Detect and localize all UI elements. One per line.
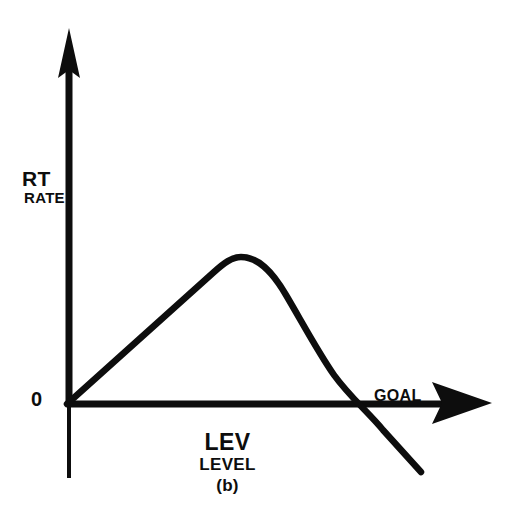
origin-label: 0 (31, 389, 43, 409)
x-axis-full-label: LEVEL (0, 456, 455, 473)
figure-panel-b: RT RATE 0 LEV LEVEL (b) GOAL (0, 0, 507, 517)
panel-caption-label: (b) (0, 477, 455, 494)
x-axis-abbrev-label: LEV (0, 431, 455, 454)
y-axis-full-label: RATE (24, 190, 65, 205)
y-axis-abbrev-label: RT (22, 168, 51, 189)
goal-marker-label: GOAL (374, 388, 422, 404)
